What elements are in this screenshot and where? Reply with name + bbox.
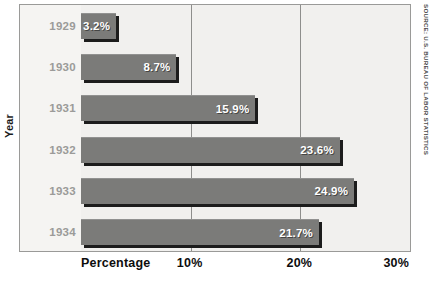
x-axis-tick-label: Percentage: [81, 256, 150, 270]
bar-row: 193324.9%: [20, 170, 410, 211]
category-label: 1934: [20, 226, 76, 238]
bar-row: 19293.2%: [20, 5, 410, 46]
x-axis-tick-label: 10%: [177, 256, 203, 270]
bar-row: 193115.9%: [20, 88, 410, 129]
plot-area: 19293.2%19308.7%193115.9%193223.6%193324…: [19, 4, 411, 252]
category-label: 1933: [20, 185, 76, 197]
category-label: 1930: [20, 61, 76, 73]
bar-rows: 19293.2%19308.7%193115.9%193223.6%193324…: [20, 5, 410, 251]
bar-track: 3.2%: [81, 13, 410, 39]
bar-row: 193421.7%: [20, 212, 410, 253]
bar-track: 15.9%: [81, 95, 410, 121]
source-note: SOURCE: U.S. BUREAU OF LABOR STATISTICS: [418, 4, 434, 194]
x-axis: Percentage10%20%30%: [19, 254, 411, 278]
bar-value-label: 21.7%: [279, 227, 319, 239]
bar-track: 24.9%: [81, 178, 410, 204]
y-axis-title: Year: [0, 0, 18, 252]
x-axis-tick-label: 20%: [287, 256, 313, 270]
category-label: 1929: [20, 20, 76, 32]
bar[interactable]: 3.2%: [81, 13, 116, 39]
y-axis-title-label: Year: [3, 114, 15, 138]
category-label: 1931: [20, 102, 76, 114]
bar-value-label: 3.2%: [83, 20, 116, 32]
bar-track: 8.7%: [81, 54, 410, 80]
bar-value-label: 23.6%: [300, 144, 340, 156]
bar-chart: Year 19293.2%19308.7%193115.9%193223.6%1…: [0, 0, 441, 282]
source-note-text: SOURCE: U.S. BUREAU OF LABOR STATISTICS: [423, 4, 430, 155]
bar[interactable]: 15.9%: [81, 95, 255, 121]
x-axis-tick-label: 30%: [383, 256, 409, 270]
bar-track: 21.7%: [81, 219, 410, 245]
bar-value-label: 24.9%: [314, 185, 354, 197]
bar[interactable]: 24.9%: [81, 178, 354, 204]
bar-track: 23.6%: [81, 137, 410, 163]
bar[interactable]: 23.6%: [81, 137, 340, 163]
bar[interactable]: 21.7%: [81, 219, 319, 245]
category-label: 1932: [20, 144, 76, 156]
bar-value-label: 15.9%: [216, 103, 256, 115]
bar[interactable]: 8.7%: [81, 54, 176, 80]
bar-row: 19308.7%: [20, 46, 410, 87]
bar-value-label: 8.7%: [143, 61, 176, 73]
bar-row: 193223.6%: [20, 129, 410, 170]
